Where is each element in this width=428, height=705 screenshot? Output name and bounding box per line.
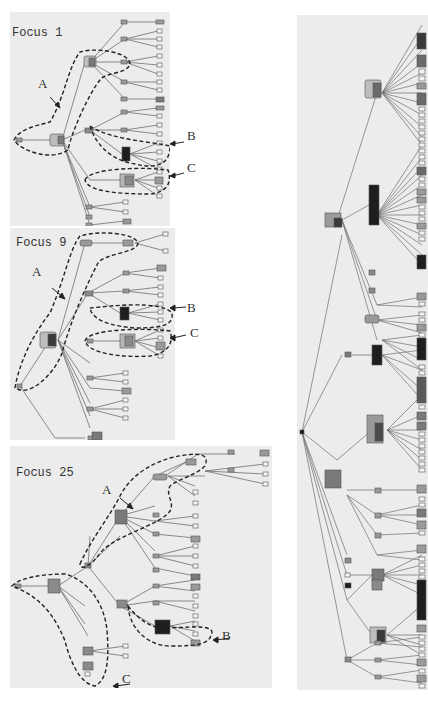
focus-9-panel: Focus 9: [10, 228, 175, 440]
leaf-column: [417, 33, 426, 688]
focus-25-tree: [10, 446, 272, 688]
callout-a: A: [38, 76, 47, 92]
callout-c: C: [122, 671, 131, 687]
focus-1-panel: Focus 1: [10, 12, 170, 226]
full-tree-panel: [297, 15, 428, 690]
callout-b: B: [222, 628, 231, 644]
focus-9-tree: [10, 228, 175, 440]
focus-1-arrows: [168, 130, 198, 190]
callout-a: A: [32, 264, 41, 280]
focus-9-arrows: [168, 300, 198, 350]
callout-a: A: [102, 482, 111, 498]
focus-25-panel: Focus 25: [10, 446, 272, 688]
focus-1-tree: [10, 12, 170, 226]
full-tree: [297, 15, 428, 690]
